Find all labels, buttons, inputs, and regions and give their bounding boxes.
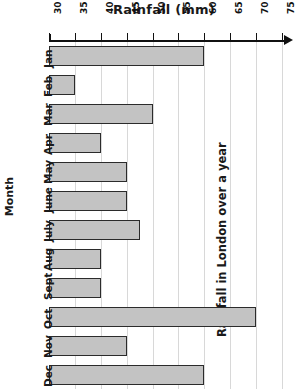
bar[interactable] (49, 220, 140, 240)
x-axis-tick (49, 33, 50, 42)
x-axis-tick (256, 33, 257, 42)
bar-row (49, 46, 282, 66)
gridline (282, 41, 283, 389)
x-axis-arrow-icon (284, 35, 293, 45)
bar-row (49, 220, 282, 240)
bar[interactable] (49, 307, 256, 327)
bar[interactable] (49, 46, 204, 66)
x-axis-tick-label: 60 (208, 1, 218, 14)
y-axis-category-label: Feb (42, 75, 54, 96)
bar[interactable] (49, 278, 101, 298)
bar-row (49, 278, 282, 298)
x-axis-tick-label: 35 (79, 1, 89, 14)
bar[interactable] (49, 365, 204, 385)
bar[interactable] (49, 162, 127, 182)
bar[interactable] (49, 104, 153, 124)
bar-row (49, 104, 282, 124)
bar[interactable] (49, 133, 101, 153)
bar-row (49, 307, 282, 327)
x-axis-tick-label: 45 (131, 1, 141, 14)
y-axis-category-label: Oct (42, 308, 54, 328)
bar-row (49, 75, 282, 95)
y-axis-category-label: Apr (42, 134, 54, 155)
x-axis-tick-label: 50 (157, 1, 167, 14)
bar[interactable] (49, 191, 127, 211)
bar[interactable] (49, 249, 101, 269)
x-axis-tick-label: 30 (53, 1, 63, 14)
x-axis-tick-label: 70 (260, 1, 270, 14)
bar-row (49, 249, 282, 269)
bar-row (49, 133, 282, 153)
x-axis-tick (230, 33, 231, 42)
y-axis-category-label: July (42, 220, 54, 242)
x-axis-tick-label: 65 (234, 1, 244, 14)
y-axis-category-label: Sept (42, 272, 54, 299)
bar-row (49, 191, 282, 211)
bar-row (49, 365, 282, 385)
y-axis-category-label: Mar (42, 103, 54, 126)
x-axis-tick-label: 40 (105, 1, 115, 14)
bar-row (49, 336, 282, 356)
chart-container: Rainfall (mm) Month Rainfall in London o… (0, 0, 304, 389)
x-axis-tick (153, 33, 154, 42)
x-axis-tick (75, 33, 76, 42)
y-axis-category-label: Dec (42, 364, 54, 386)
bar-row (49, 162, 282, 182)
x-axis-tick (204, 33, 205, 42)
y-axis-category-label: Nov (42, 335, 54, 358)
y-axis-category-label: Aug (42, 247, 54, 270)
y-axis-title: Month (3, 171, 16, 223)
x-axis-tick (178, 33, 179, 42)
x-axis-tick (282, 33, 283, 42)
plot-area (49, 41, 282, 389)
x-axis-tick-label: 55 (182, 1, 192, 14)
bar[interactable] (49, 336, 127, 356)
x-axis-tick-label: 75 (286, 1, 296, 14)
x-axis-tick (101, 33, 102, 42)
x-axis-tick (127, 33, 128, 42)
y-axis-category-label: June (42, 187, 54, 213)
y-axis-category-label: May (42, 159, 54, 183)
y-axis-category-label: Jan (42, 49, 54, 67)
